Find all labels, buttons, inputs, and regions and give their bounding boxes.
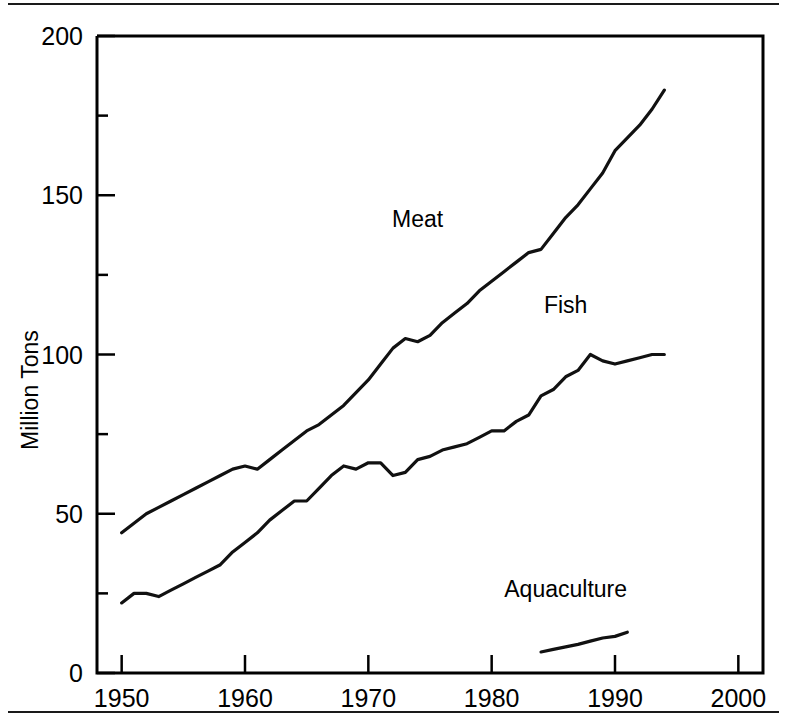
x-tick-label-2000: 2000 xyxy=(711,684,767,712)
series-label-aquaculture: Aquaculture xyxy=(504,576,627,602)
x-tick-label-1970: 1970 xyxy=(341,684,397,712)
line-chart-plot: 050100150200 195019601970198019902000 Mi… xyxy=(0,0,787,728)
y-tick-label-150: 150 xyxy=(41,181,83,209)
series-label-fish: Fish xyxy=(544,292,587,318)
series-line-aquaculture xyxy=(541,632,627,652)
y-tick-label-200: 200 xyxy=(41,22,83,50)
y-tick-label-100: 100 xyxy=(41,341,83,369)
y-tick-label-0: 0 xyxy=(69,659,83,687)
x-axis-tick-labels: 195019601970198019902000 xyxy=(94,684,766,712)
x-tick-label-1950: 1950 xyxy=(94,684,150,712)
series-label-meat: Meat xyxy=(392,206,444,232)
series-line-fish xyxy=(122,355,665,603)
y-axis-major-ticks xyxy=(97,36,115,673)
y-axis-tick-labels: 050100150200 xyxy=(41,22,83,687)
x-axis-major-ticks xyxy=(122,655,739,673)
x-tick-label-1980: 1980 xyxy=(464,684,520,712)
chart-figure: 050100150200 195019601970198019902000 Mi… xyxy=(0,0,787,728)
x-tick-label-1990: 1990 xyxy=(587,684,643,712)
data-series-group xyxy=(122,90,665,652)
y-tick-label-50: 50 xyxy=(55,500,83,528)
y-axis-title: Million Tons xyxy=(17,330,43,450)
x-tick-label-1960: 1960 xyxy=(217,684,273,712)
